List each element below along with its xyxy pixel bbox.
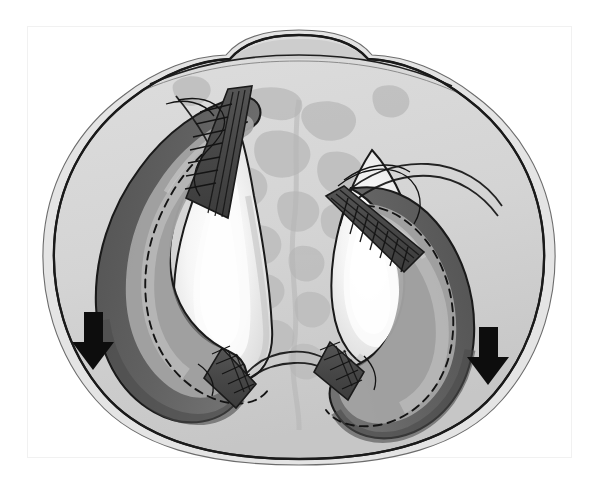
figure-root: Bilateral meniscal extrusion with suture… xyxy=(0,0,599,485)
tibial-plateau xyxy=(43,30,555,465)
knee-meniscus-illustration xyxy=(0,0,599,485)
